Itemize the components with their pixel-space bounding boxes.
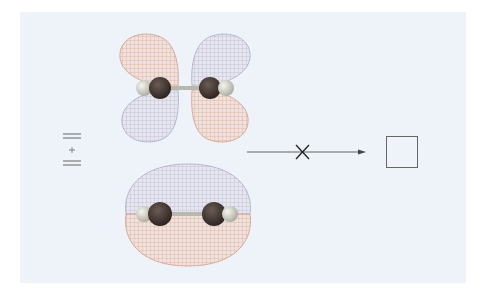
- bonding-pi-orbital: [118, 158, 258, 270]
- blocked-reaction-arrow: [246, 140, 368, 164]
- antibonding-pi-orbital: [110, 28, 260, 148]
- empty-product-box: [386, 136, 418, 168]
- double-bond-plus-symbol: [60, 130, 84, 170]
